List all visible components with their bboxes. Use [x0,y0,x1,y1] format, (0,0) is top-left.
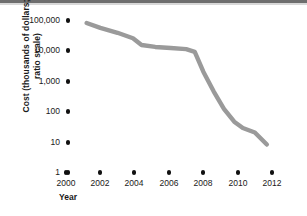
chart-screenshot: Cost (thousands of dollars; ratio scale)… [0,0,307,216]
cost-series-line [87,23,267,145]
plot-area [0,0,307,216]
